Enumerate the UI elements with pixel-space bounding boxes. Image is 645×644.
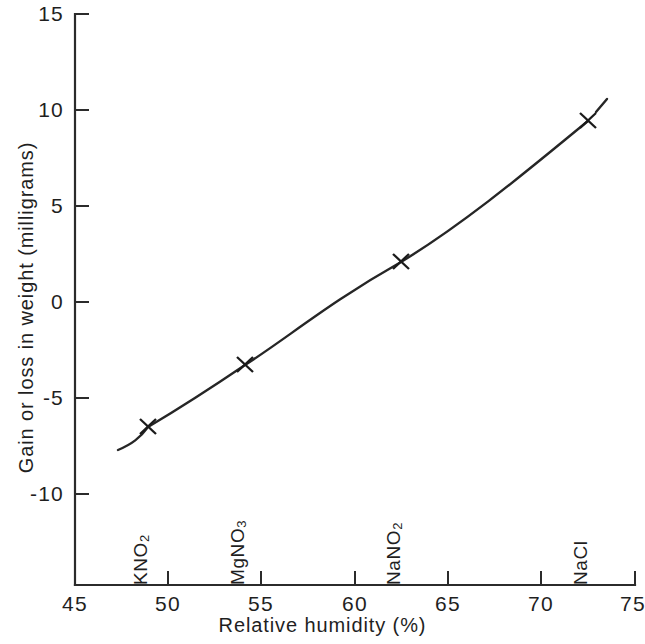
x-tick-label-70: 70 [528, 592, 554, 616]
salt-label-base: MgNO [227, 528, 248, 585]
x-tick-label-45: 45 [62, 592, 88, 616]
salt-label-sub: 2 [137, 534, 152, 542]
chart-figure: 15 10 5 0 -5 -10 45 50 55 60 65 70 75 Ga… [0, 0, 645, 644]
x-tick-label-55: 55 [248, 592, 274, 616]
x-tick-label-50: 50 [155, 592, 181, 616]
salt-label-mgno3: MgNO3 [227, 520, 249, 585]
data-curve [118, 121, 588, 450]
data-point-marker [393, 254, 409, 269]
salt-label-sub: 3 [234, 520, 249, 528]
x-tick-label-65: 65 [435, 592, 461, 616]
x-tick-label-75: 75 [620, 592, 645, 616]
salt-label-kno2: KNO2 [130, 534, 152, 585]
data-point-marker [237, 357, 253, 372]
salt-label-sub: 2 [390, 522, 405, 530]
salt-label-base: NaNO [383, 530, 404, 585]
y-axis-title: Gain or loss in weight (milligrams) [15, 98, 38, 518]
salt-label-nano2: NaNO2 [383, 522, 405, 585]
y-tick-label-15: 15 [8, 2, 64, 26]
curve-tail-right [596, 99, 607, 112]
x-axis-title: Relative humidity (%) [0, 614, 645, 637]
salt-label-nacl: NaCl [570, 540, 592, 585]
salt-label-base: KNO [130, 542, 151, 585]
data-point-marker [580, 113, 596, 128]
data-point-marker [140, 419, 156, 434]
salt-label-base: NaCl [570, 540, 591, 585]
x-tick-label-60: 60 [342, 592, 368, 616]
plot-canvas [0, 0, 645, 644]
